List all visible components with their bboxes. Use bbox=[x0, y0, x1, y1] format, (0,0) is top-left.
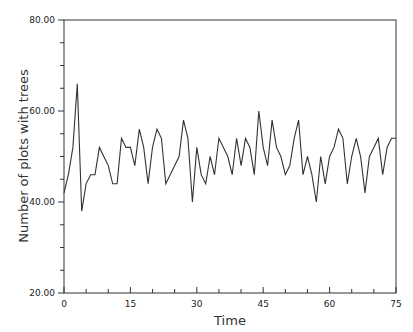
y-axis-title: Number of plots with trees bbox=[16, 69, 31, 243]
y-tick-label: 80.00 bbox=[29, 15, 55, 25]
data-series-line bbox=[64, 84, 396, 211]
x-tick-label: 0 bbox=[61, 299, 67, 309]
x-axis-title: Time bbox=[213, 313, 246, 328]
plot-border bbox=[64, 20, 396, 293]
x-axis: 01530456075 bbox=[61, 287, 402, 309]
x-tick-label: 15 bbox=[125, 299, 136, 309]
x-tick-label: 75 bbox=[390, 299, 401, 309]
plot-frame bbox=[64, 20, 396, 293]
line-chart: 20.0040.0060.0080.00 01530456075 Time Nu… bbox=[0, 0, 413, 332]
x-tick-label: 60 bbox=[324, 299, 336, 309]
x-tick-label: 30 bbox=[191, 299, 203, 309]
y-tick-label: 60.00 bbox=[29, 106, 55, 116]
x-tick-label: 45 bbox=[257, 299, 268, 309]
y-tick-label: 40.00 bbox=[29, 197, 55, 207]
y-tick-label: 20.00 bbox=[29, 288, 55, 298]
y-axis: 20.0040.0060.0080.00 bbox=[29, 15, 64, 298]
